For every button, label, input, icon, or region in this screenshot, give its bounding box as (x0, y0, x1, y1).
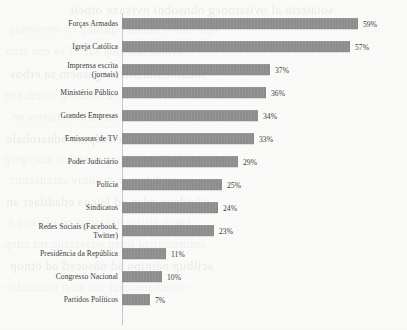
bar-category-label: Poder Judiciário (0, 157, 118, 166)
bar (122, 202, 218, 214)
bar (122, 133, 254, 145)
horizontal-bar-chart: Forças Armadas59%Igreja Católica57%Impre… (0, 0, 407, 330)
bar-value-label: 57% (355, 42, 369, 51)
chart-bar-row: Ministério Público36% (0, 81, 407, 104)
bar (122, 179, 222, 191)
bar-value-label: 25% (227, 180, 241, 189)
bar-value-label: 37% (275, 65, 289, 74)
chart-bar-row: Poder Judiciário29% (0, 150, 407, 173)
bar-value-label: 7% (155, 295, 165, 304)
bar-value-label: 24% (223, 203, 237, 212)
chart-bar-row: Redes Sociais (Facebook, Twitter)23% (0, 219, 407, 242)
bar (122, 294, 150, 306)
bar-category-label: Presidência da República (0, 249, 118, 258)
bar (122, 64, 270, 76)
chart-bar-row: Emissoras de TV33% (0, 127, 407, 150)
bar (122, 41, 350, 53)
bar (122, 225, 214, 237)
bar-category-label: Forças Armadas (0, 19, 118, 28)
bar-value-label: 36% (271, 88, 285, 97)
chart-bar-row: Forças Armadas59% (0, 12, 407, 35)
bar-value-label: 59% (363, 19, 377, 28)
chart-bar-row: Sindicatos24% (0, 196, 407, 219)
bar (122, 18, 358, 30)
bar-category-label: Imprensa escrita (jornais) (0, 60, 118, 79)
bar-category-label: Congresso Nacional (0, 272, 118, 281)
bar-value-label: 29% (243, 157, 257, 166)
chart-bar-row: Presidência da República11% (0, 242, 407, 265)
bar-value-label: 34% (263, 111, 277, 120)
bar-value-label: 11% (171, 249, 185, 258)
bar (122, 110, 258, 122)
bar (122, 87, 266, 99)
bar (122, 156, 238, 168)
bar-category-label: Grandes Empresas (0, 111, 118, 120)
bar-value-label: 33% (259, 134, 273, 143)
chart-bar-row: Partidos Políticos7% (0, 288, 407, 311)
bar (122, 271, 162, 283)
bar-value-label: 10% (167, 272, 181, 281)
chart-bar-row: Congresso Nacional10% (0, 265, 407, 288)
chart-bar-row: Imprensa escrita (jornais)37% (0, 58, 407, 81)
chart-bar-row: Grandes Empresas34% (0, 104, 407, 127)
bar-category-label: Emissoras de TV (0, 134, 118, 143)
bar-category-label: Redes Sociais (Facebook, Twitter) (0, 221, 118, 240)
bar-category-label: Igreja Católica (0, 42, 118, 51)
bar-category-label: Sindicatos (0, 203, 118, 212)
bar-value-label: 23% (219, 226, 233, 235)
scanned-chart-page: soiaterio al ovitaroneg ohnsobni ovixaxe… (0, 0, 407, 330)
bar-category-label: Partidos Políticos (0, 295, 118, 304)
bar (122, 248, 166, 260)
chart-bar-row: Polícia25% (0, 173, 407, 196)
bar-category-label: Polícia (0, 180, 118, 189)
bar-category-label: Ministério Público (0, 88, 118, 97)
chart-bar-row: Igreja Católica57% (0, 35, 407, 58)
